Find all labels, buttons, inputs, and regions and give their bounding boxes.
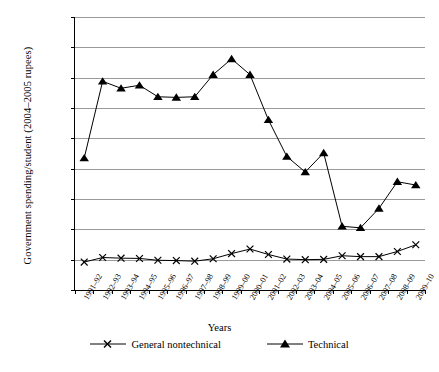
x-tick-mark (407, 290, 408, 294)
data-point-marker (337, 222, 346, 229)
data-point-marker (265, 251, 272, 258)
plot-area: 010,00020,00030,00040,00050,00060,00070,… (74, 17, 425, 291)
x-tick-mark (130, 290, 131, 294)
x-tick-mark (241, 290, 242, 294)
x-tick-mark (204, 290, 205, 294)
chart-figure: Government spending/student (2004–2005 r… (0, 0, 439, 372)
x-tick-mark (388, 290, 389, 294)
x-tick-mark (333, 290, 334, 294)
triangle-marker-icon (267, 338, 303, 350)
chart-legend: General nontechnical Technical (0, 338, 439, 350)
data-point-marker (282, 152, 291, 159)
x-tick-mark (222, 290, 223, 294)
series-line (84, 245, 416, 262)
data-point-marker (81, 259, 88, 266)
y-axis-title: Government spending/student (2004–2005 r… (22, 16, 33, 296)
x-tick-mark (370, 290, 371, 294)
data-point-marker (374, 204, 383, 211)
data-point-marker (98, 77, 107, 84)
x-tick-mark (93, 290, 94, 294)
x-axis-title: Years (0, 322, 439, 333)
x-tick-mark (75, 290, 76, 294)
data-point-marker (319, 149, 328, 156)
x-marker-icon (90, 338, 126, 350)
x-tick-mark (149, 290, 150, 294)
series-line (84, 59, 416, 228)
data-point-marker (153, 93, 162, 100)
data-point-marker (412, 241, 419, 248)
data-point-marker (393, 178, 402, 185)
x-tick-mark (112, 290, 113, 294)
legend-item-general-nontechnical: General nontechnical (90, 338, 221, 350)
data-point-marker (247, 246, 254, 253)
legend-label-technical: Technical (308, 339, 349, 350)
x-tick-mark (314, 290, 315, 294)
data-point-marker (227, 55, 236, 62)
x-tick-mark (296, 290, 297, 294)
data-point-marker (80, 154, 89, 161)
x-tick-mark (167, 290, 168, 294)
series-layer (75, 17, 425, 290)
data-point-marker (190, 93, 199, 100)
legend-label-general-nontechnical: General nontechnical (131, 339, 221, 350)
data-point-marker (394, 248, 401, 255)
x-tick-mark (278, 290, 279, 294)
x-tick-mark (186, 290, 187, 294)
legend-item-technical: Technical (267, 338, 349, 350)
x-tick-mark (259, 290, 260, 294)
data-point-marker (228, 250, 235, 257)
data-point-marker (135, 81, 144, 88)
data-point-marker (264, 116, 273, 123)
x-tick-mark (351, 290, 352, 294)
x-tick-mark (425, 290, 426, 294)
